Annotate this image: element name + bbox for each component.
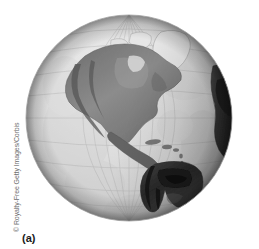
globe-svg — [25, 14, 233, 222]
photo-credit-text: © Royalty-Free Getty Images/Corbis — [11, 114, 23, 232]
figure-container: © Royalty-Free Getty Images/Corbis (a) — [0, 0, 259, 249]
earth-globe-image — [25, 14, 233, 222]
landmass-europe-hint — [211, 40, 233, 58]
figure-caption-label: (a) — [22, 232, 35, 244]
